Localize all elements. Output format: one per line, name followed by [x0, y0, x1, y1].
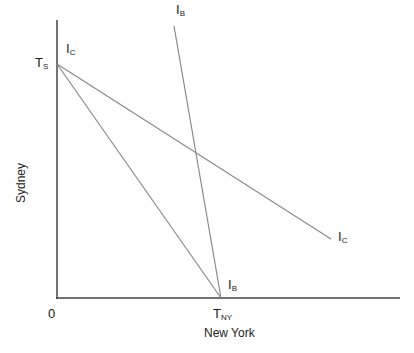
ic-right-label: IC	[338, 229, 347, 245]
ib-line	[174, 26, 221, 298]
origin-label: 0	[48, 306, 55, 321]
ic-top-label: IC	[66, 41, 75, 57]
ib-bottom-label: IB	[228, 277, 237, 293]
y-axis-label: Sydney	[14, 163, 28, 203]
tny-label: TNY	[213, 306, 232, 322]
ib-top-label: IB	[176, 2, 185, 18]
diagram-canvas	[0, 0, 414, 353]
ts-tny-line	[57, 64, 221, 298]
ic-line	[57, 64, 331, 239]
ts-label: TS	[35, 55, 48, 71]
x-axis-label: New York	[204, 326, 255, 340]
